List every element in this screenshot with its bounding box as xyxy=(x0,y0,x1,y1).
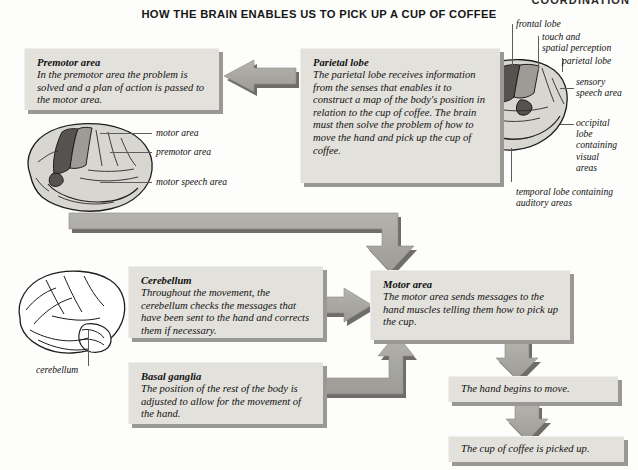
leader-motor-area xyxy=(100,133,152,134)
label-cerebellum: cerebellum xyxy=(36,364,78,375)
cerebellum-brain-illustration xyxy=(12,266,132,365)
label-motor-speech-area: motor speech area xyxy=(156,176,227,187)
box-cerebellum-body: Throughout the movement, the cerebellum … xyxy=(141,287,313,337)
leader-premotor-area xyxy=(110,152,152,153)
label-frontal-lobe: frontal lobe xyxy=(516,18,561,29)
box-premotor-area-title: Premotor area xyxy=(37,56,209,69)
box-hand-begins-to-move-body: The hand begins to move. xyxy=(461,383,608,396)
box-basal-ganglia-body: The position of the rest of the body is … xyxy=(141,383,313,421)
label-parietal-lobe: parietal lobe xyxy=(562,55,611,66)
label-occipital-lobe: occipital lobe containing visual areas xyxy=(576,117,617,173)
leader-motor-speech-area xyxy=(100,182,152,183)
box-cerebellum-title: Cerebellum xyxy=(141,274,313,287)
label-premotor-area: premotor area xyxy=(156,146,211,157)
leader-sensory-speech xyxy=(560,88,574,89)
left-brain-illustration xyxy=(18,112,168,221)
leader-temporal-lobe xyxy=(511,148,512,182)
box-cup-picked-up-body: The cup of coffee is picked up. xyxy=(461,443,614,456)
box-premotor-area[interactable]: Premotor area In the premotor area the p… xyxy=(24,48,219,110)
box-cerebellum[interactable]: Cerebellum Throughout the movement, the … xyxy=(128,266,323,338)
label-touch-spatial-perception: touch and spatial perception xyxy=(542,31,611,53)
label-motor-area: motor area xyxy=(156,127,199,138)
leader-frontal-lobe xyxy=(512,24,513,66)
box-hand-begins-to-move[interactable]: The hand begins to move. xyxy=(448,376,618,402)
box-cup-picked-up[interactable]: The cup of coffee is picked up. xyxy=(448,436,624,462)
arrow-basal-ganglia-to-motor-area xyxy=(320,334,417,398)
box-motor-area-title: Motor area xyxy=(383,278,560,291)
diagram-page: COORDINATION HOW THE BRAIN ENABLES US TO… xyxy=(0,0,638,470)
box-basal-ganglia[interactable]: Basal ganglia The position of the rest o… xyxy=(128,362,323,424)
box-parietal-lobe-body: The parietal lobe receives information f… xyxy=(313,69,490,157)
arrow-cerebellum-to-motor-area xyxy=(320,288,375,326)
label-sensory-speech-area: sensory speech area xyxy=(576,76,622,98)
leader-touch-spatial xyxy=(538,36,539,70)
box-motor-area[interactable]: Motor area The motor area sends messages… xyxy=(370,270,570,340)
box-parietal-lobe[interactable]: Parietal lobe The parietal lobe receives… xyxy=(300,48,500,183)
arrow-parietal-to-premotor xyxy=(224,60,299,96)
box-motor-area-body: The motor area sends messages to the han… xyxy=(383,291,560,329)
box-basal-ganglia-title: Basal ganglia xyxy=(141,370,313,383)
box-parietal-lobe-title: Parietal lobe xyxy=(313,56,490,69)
leader-cerebellum xyxy=(88,330,89,366)
label-temporal-lobe: temporal lobe containing auditory areas xyxy=(516,186,613,208)
box-premotor-area-body: In the premotor area the problem is solv… xyxy=(37,69,209,107)
running-head: COORDINATION xyxy=(531,0,630,6)
leader-occipital-lobe xyxy=(560,124,574,125)
